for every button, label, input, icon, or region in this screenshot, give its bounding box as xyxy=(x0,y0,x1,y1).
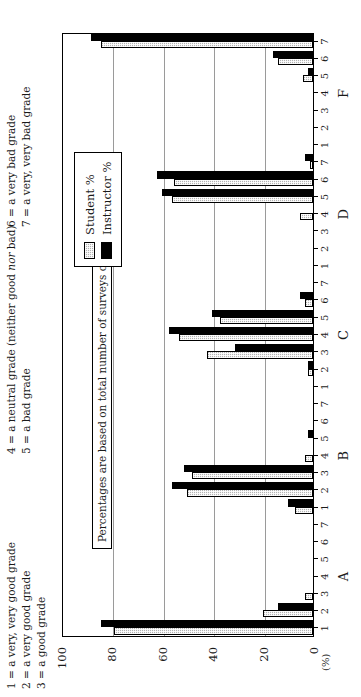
bar-student-C3 xyxy=(207,351,313,358)
bar-student-F5 xyxy=(303,75,313,82)
x-axis-tick xyxy=(314,300,318,301)
bar-instructor-A2 xyxy=(278,603,313,610)
legend-entry-instructor: Instructor % xyxy=(98,162,115,259)
x-axis-tick xyxy=(314,75,318,76)
x-axis-rating-label: 4 xyxy=(319,573,330,579)
x-axis-tick xyxy=(314,179,318,180)
y-axis-tick-label: 0 xyxy=(307,647,321,654)
bar-student-D7 xyxy=(310,161,313,168)
grade-key-legend: 1 = a very, very good grade 2 = a very g… xyxy=(0,0,58,697)
x-axis-rating-label: 1 xyxy=(319,504,330,510)
x-axis-tick xyxy=(314,489,318,490)
x-axis-rating-label: 2 xyxy=(319,366,330,372)
x-axis-tick xyxy=(314,161,318,162)
x-axis-tick xyxy=(314,472,318,473)
bar-student-B1 xyxy=(295,507,313,514)
x-axis-rating-label: 1 xyxy=(319,142,330,148)
x-axis-rating-label: 5 xyxy=(319,556,330,562)
x-axis-tick xyxy=(314,369,318,370)
x-axis-rating-label: 6 xyxy=(319,539,330,545)
y-axis-tick-label: 20 xyxy=(257,647,271,662)
bar-instructor-C5 xyxy=(212,310,313,317)
bar-student-F7 xyxy=(101,41,313,48)
bar-student-C2 xyxy=(308,369,313,376)
grade-key-item: 5 = a bad grade xyxy=(19,225,34,454)
x-axis-rating-label: 1 xyxy=(319,384,330,390)
x-axis-rating-label: 7 xyxy=(319,280,330,286)
bar-instructor-B5 xyxy=(308,430,313,437)
x-axis-group-label-B: B xyxy=(336,451,351,461)
x-axis-rating-label: 4 xyxy=(319,453,330,459)
x-axis-rating-label: 3 xyxy=(319,107,330,113)
x-axis-rating-label: 7 xyxy=(319,38,330,44)
x-axis-rating-label: 4 xyxy=(319,90,330,96)
bar-instructor-D7 xyxy=(305,154,313,161)
x-axis-rating-label: 6 xyxy=(319,177,330,183)
x-axis-group-label-C: C xyxy=(336,330,351,340)
x-axis-rating-label: 3 xyxy=(319,470,330,476)
x-axis-rating-label: 1 xyxy=(319,263,330,269)
bar-student-B3 xyxy=(192,472,313,479)
bar-student-D5 xyxy=(172,196,313,203)
grade-key-column-2: 4 = a neutral grade (neither good nor ba… xyxy=(4,225,34,454)
x-axis-tick xyxy=(314,627,318,628)
grade-key-column-3: 6 = a very bad grade 7 = a very, very ba… xyxy=(4,86,34,227)
x-axis-rating-label: 7 xyxy=(319,401,330,407)
x-axis-rating-label: 7 xyxy=(319,159,330,165)
bar-chart-figure: 1 = a very, very good grade 2 = a very g… xyxy=(0,0,361,697)
x-axis-tick xyxy=(314,230,318,231)
bar-instructor-C3 xyxy=(235,344,313,351)
x-axis-group-label-D: D xyxy=(336,209,351,219)
x-axis-tick xyxy=(314,576,318,577)
legend-label-instructor: Instructor % xyxy=(100,162,114,235)
y-axis-tick-label: 80 xyxy=(105,647,119,662)
x-axis-tick xyxy=(314,282,318,283)
bar-instructor-D5 xyxy=(162,189,313,196)
chart-legend: Student % Instructor % xyxy=(74,152,122,267)
rotated-page-wrapper: 1 = a very, very good grade 2 = a very g… xyxy=(0,0,361,697)
bar-student-A2 xyxy=(263,610,313,617)
x-axis-rating-label: 6 xyxy=(319,297,330,303)
x-axis-tick xyxy=(314,334,318,335)
x-axis-rating-label: 2 xyxy=(319,608,330,614)
x-axis-rating-label: 2 xyxy=(319,125,330,131)
x-axis-tick xyxy=(314,213,318,214)
x-axis-tick xyxy=(314,541,318,542)
x-axis-tick xyxy=(314,386,318,387)
y-axis-tick-label: 100 xyxy=(55,647,69,669)
bar-instructor-F6 xyxy=(273,51,313,58)
grade-key-item: 3 = a good grade xyxy=(34,542,49,689)
x-axis-tick xyxy=(314,92,318,93)
bar-student-C6 xyxy=(305,300,313,307)
bar-instructor-A1 xyxy=(101,620,313,627)
legend-swatch-instructor-icon xyxy=(101,242,112,259)
grade-key-item: 1 = a very, very good grade xyxy=(4,542,19,689)
x-axis-tick xyxy=(314,351,318,352)
x-axis-rating-label: 3 xyxy=(319,349,330,355)
bar-student-D6 xyxy=(174,179,313,186)
bar-student-A1 xyxy=(114,627,313,634)
x-axis-rating-label: 1 xyxy=(319,625,330,631)
legend-swatch-student-icon xyxy=(84,242,95,259)
legend-label-student: Student % xyxy=(83,174,97,235)
x-axis-rating-label: 3 xyxy=(319,591,330,597)
x-axis-tick xyxy=(314,41,318,42)
x-axis-tick xyxy=(314,455,318,456)
bar-instructor-C4 xyxy=(169,327,313,334)
x-axis-tick xyxy=(314,110,318,111)
x-axis-tick xyxy=(314,144,318,145)
bar-instructor-B1 xyxy=(288,499,313,506)
bar-student-C4 xyxy=(179,334,313,341)
grade-key-item-neutral: 4 = a neutral grade (neither good nor ba… xyxy=(4,225,19,454)
x-axis-rating-label: 5 xyxy=(319,194,330,200)
x-axis-tick xyxy=(314,196,318,197)
x-axis-rating-label: 2 xyxy=(319,246,330,252)
bar-student-B4 xyxy=(305,455,313,462)
bar-instructor-C6 xyxy=(300,292,313,299)
bar-instructor-D6 xyxy=(157,171,313,178)
x-axis-tick xyxy=(314,317,318,318)
x-axis-tick xyxy=(314,524,318,525)
bar-instructor-F7 xyxy=(91,33,313,40)
x-axis-rating-label: 7 xyxy=(319,522,330,528)
bar-student-A3 xyxy=(305,593,313,600)
